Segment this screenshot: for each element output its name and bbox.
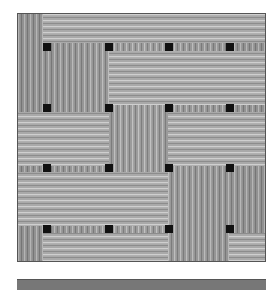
next-texture-tile-edge [17, 279, 266, 290]
weave-pattern [18, 14, 266, 262]
woven-texture-tile [17, 13, 266, 262]
